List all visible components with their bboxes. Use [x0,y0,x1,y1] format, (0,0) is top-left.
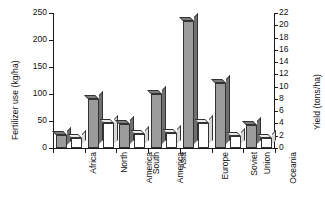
y-tick-label-left: 50 [38,115,47,125]
x-label-oceania: Oceania [288,152,298,184]
x-label-south-america: South [152,152,162,174]
bar-side-face [177,125,181,144]
y-tick-label-right: 16 [279,44,288,54]
x-label-asia: Asia [178,152,188,169]
y-tick-label-right: 20 [279,19,288,29]
y-tick-label-right: 10 [279,81,288,91]
bar-front-face [71,138,82,148]
bar-front-face [134,134,145,148]
bar-fertilizer-north-america [88,99,99,148]
y-tick-label-left: 250 [33,7,47,17]
y-tick-label-left: 200 [33,34,47,44]
y-tick-label-right: 8 [279,93,284,103]
x-tick [275,148,276,153]
x-tick [212,148,213,153]
x-label-north-america: North [119,152,129,173]
bar-yield-asia [166,133,177,148]
y-tick-right [274,13,278,14]
y-tick-right [274,50,278,51]
y-tick-label-right: 4 [279,117,284,127]
y-axis-left-line [53,13,54,149]
bar-fertilizer-oceania [246,125,257,148]
bar-front-face [119,124,130,148]
y-axis-right-line [274,13,275,149]
y-tick-label-right: 12 [279,68,288,78]
plot-area: 050100150200250 0246810121416182022 [53,13,275,148]
y-tick-label-right: 2 [279,130,284,140]
bar-front-face [230,136,241,148]
y-tick-right [274,25,278,26]
y-tick-right [274,62,278,63]
bar-front-face [166,133,177,148]
y-tick-left [49,40,53,41]
y-tick-label-left: 150 [33,61,47,71]
bar-side-face [82,130,86,144]
x-axis-line [53,148,275,149]
bar-side-face [145,126,149,144]
bar-yield-north-america [103,123,114,148]
bar-front-face [261,138,272,148]
bar-fertilizer-africa [56,135,67,149]
x-label-europe: Europe [220,152,230,179]
y-tick-label-right: 18 [279,32,288,42]
bar-fertilizer-asia [151,94,162,148]
y-axis-right-title: Yield (tons/ha) [312,74,322,130]
fertilizer-yield-bar-chart: Fertilizer use (kg/ha) Yield (tons/ha) 0… [0,0,325,200]
y-tick-label-left: 100 [33,88,47,98]
y-tick-right [274,74,278,75]
x-label-africa: Africa [88,152,98,174]
bar-fertilizer-soviet-union [215,83,226,148]
y-tick-label-left: 0 [42,142,47,152]
bar-side-face [272,130,276,144]
y-tick-left [49,121,53,122]
y-axis-left-title: Fertilizer use (kg/ha) [10,60,20,140]
bar-front-face [246,125,257,148]
y-tick-left [49,94,53,95]
x-tick [53,148,54,153]
bar-front-face [103,123,114,148]
bar-fertilizer-south-america [119,124,130,148]
y-tick-right [274,38,278,39]
bar-side-face [241,128,245,144]
y-tick-right [274,123,278,124]
bar-fertilizer-europe [183,21,194,148]
y-tick-label-right: 6 [279,105,284,115]
y-tick-right [274,87,278,88]
bar-yield-europe [198,123,209,148]
bar-front-face [198,123,209,148]
bar-front-face [183,21,194,148]
bar-yield-south-america [134,134,145,148]
bar-side-face [209,115,213,144]
x-tick [243,148,244,153]
y-tick-left [49,13,53,14]
y-tick-right [274,99,278,100]
x-label-soviet-union: Union [262,152,272,174]
bar-front-face [151,94,162,148]
y-tick-label-right: 14 [279,56,288,66]
y-tick-right [274,111,278,112]
bar-front-face [215,83,226,148]
bar-front-face [88,99,99,148]
bar-yield-soviet-union [230,136,241,148]
bar-yield-oceania [261,138,272,148]
x-label-soviet-union: Soviet [248,152,258,176]
y-tick-left [49,67,53,68]
y-tick-label-right: 22 [279,7,288,17]
bar-front-face [56,135,67,149]
x-tick [85,148,86,153]
bar-yield-africa [71,138,82,148]
y-tick-label-right: 0 [279,142,284,152]
x-tick [116,148,117,153]
